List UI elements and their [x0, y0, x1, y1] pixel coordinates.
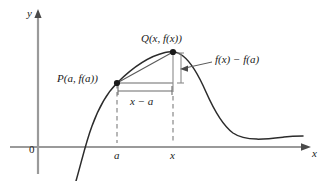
y-axis-label: y — [27, 8, 32, 19]
run-label: x − a — [130, 96, 153, 107]
rise-label: f(x) − f(a) — [215, 54, 259, 65]
point-q-marker — [170, 49, 176, 55]
secant-line-diagram: y x 0 a x Q(x, f(x)) P(a, f(a)) f(x) − f… — [0, 0, 327, 181]
x-tick-label-x: x — [170, 150, 175, 161]
run-bracket — [118, 86, 172, 95]
point-q-label: Q(x, f(x)) — [141, 33, 182, 44]
secant-line — [117, 52, 173, 83]
diagram-canvas — [0, 0, 327, 181]
function-curve — [76, 52, 303, 181]
x-axis-label: x — [312, 148, 317, 159]
y-axis — [34, 9, 41, 174]
x-tick-label-a: a — [114, 150, 120, 161]
point-p-marker — [114, 80, 120, 86]
rise-leader-arrow — [180, 62, 212, 72]
origin-label: 0 — [29, 144, 35, 155]
x-axis — [10, 143, 311, 151]
point-p-label: P(a, f(a)) — [57, 73, 98, 84]
